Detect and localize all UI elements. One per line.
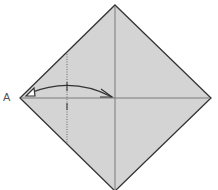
- origami-diagram: A: [0, 0, 218, 190]
- vertex-label-a: A: [3, 92, 10, 103]
- diagram-canvas: [0, 0, 218, 190]
